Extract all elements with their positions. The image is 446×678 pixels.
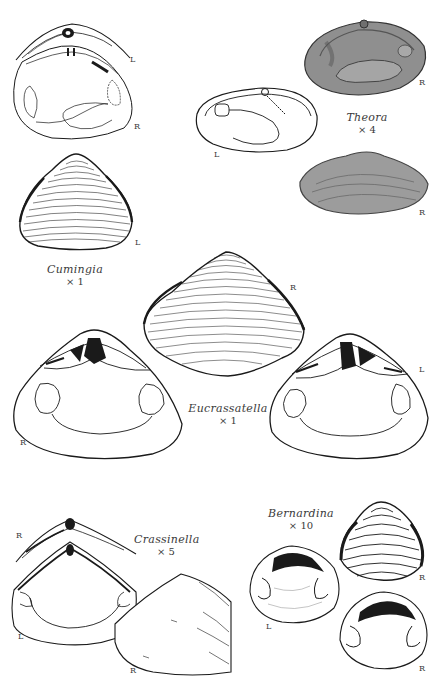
eucrassatella-genus: Eucrassatella <box>186 403 270 415</box>
crassinella-hinge-label: R <box>16 531 22 540</box>
crassinella-exterior <box>113 572 233 678</box>
bernardina-interior-left-label: L <box>266 622 271 631</box>
crassinella-magnification: × 5 <box>134 546 198 558</box>
cumingia-interior <box>12 42 137 142</box>
eucrassatella-interior-left <box>266 332 430 462</box>
crassinella-caption: Crassinella × 5 <box>134 534 198 558</box>
bernardina-caption: Bernardina × 10 <box>266 508 336 532</box>
theora-magnification: × 4 <box>332 124 402 136</box>
theora-interior-outline <box>193 82 323 156</box>
bernardina-exterior-label: R <box>419 573 425 582</box>
bernardina-exterior <box>337 500 427 584</box>
bernardina-interior-right <box>338 590 428 672</box>
cumingia-exterior <box>14 152 138 252</box>
cumingia-magnification: × 1 <box>40 276 110 288</box>
eucrassatella-interior-right-label: R <box>20 438 26 447</box>
cumingia-caption: Cumingia × 1 <box>40 264 110 288</box>
crassinella-exterior-label: R <box>130 666 136 675</box>
bernardina-interior-right-label: R <box>419 664 425 673</box>
bernardina-interior-left <box>248 544 342 626</box>
bernardina-magnification: × 10 <box>266 520 336 532</box>
eucrassatella-interior-right <box>10 328 184 462</box>
eucrassatella-interior-left-label: L <box>419 365 424 374</box>
theora-caption: Theora × 4 <box>332 112 402 136</box>
cumingia-interior-label: R <box>134 122 140 131</box>
bernardina-genus: Bernardina <box>266 508 336 520</box>
cumingia-genus: Cumingia <box>40 264 110 276</box>
plate-page: L R L C <box>0 0 446 678</box>
cumingia-exterior-label: L <box>135 238 140 247</box>
theora-exterior-label: R <box>419 208 425 217</box>
crassinella-interior-label: L <box>18 632 23 641</box>
eucrassatella-caption: Eucrassatella × 1 <box>186 403 270 427</box>
theora-exterior-shaded <box>296 146 430 218</box>
eucrassatella-magnification: × 1 <box>186 415 270 427</box>
theora-interior-shaded-label: R <box>419 78 425 87</box>
theora-genus: Theora <box>332 112 402 124</box>
crassinella-genus: Crassinella <box>134 534 198 546</box>
theora-interior-outline-label: L <box>214 150 219 159</box>
eucrassatella-exterior-label: R <box>290 283 296 292</box>
